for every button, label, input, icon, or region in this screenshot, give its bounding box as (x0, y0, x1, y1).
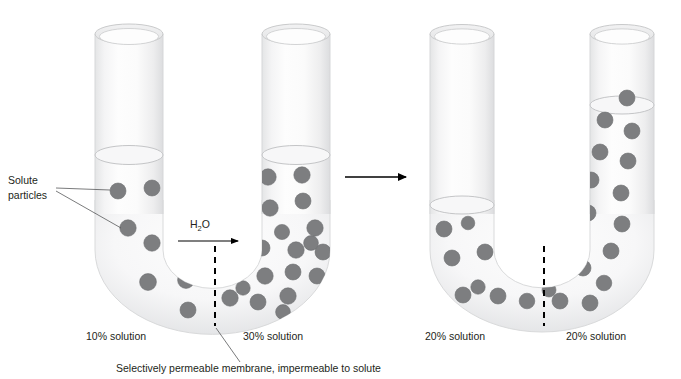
solute-particle (262, 200, 278, 216)
solute-particle (250, 294, 266, 310)
solute-particle (455, 287, 471, 303)
solute-particle (309, 268, 325, 284)
solute-particle (295, 193, 311, 209)
right-tube-left-rim (430, 25, 494, 45)
solute-callout-line2: particles (8, 189, 47, 201)
solute-particle (620, 153, 636, 169)
solute-particle (198, 250, 213, 265)
left-tube-right-rim (262, 24, 330, 45)
solute-particle (569, 232, 585, 248)
solute-particle (173, 240, 189, 256)
solute-particle (285, 264, 301, 280)
solute-particle (528, 233, 541, 246)
solute-particle (178, 272, 195, 289)
water-flow-indicator: H2O (178, 218, 238, 241)
solute-particle (260, 169, 276, 185)
solute-particle (490, 288, 506, 304)
solute-particle (519, 293, 535, 309)
right-tube-left-arm (430, 34, 494, 214)
solute-particle (110, 183, 126, 199)
solute-particle (477, 244, 493, 260)
left-u-tube-assembly: H2O Solute particles 10% solution 30% so… (8, 24, 331, 342)
solute-particle (511, 259, 527, 275)
solute-particle (274, 224, 289, 239)
solute-particle (120, 220, 136, 236)
solute-particle (222, 290, 238, 306)
solute-particle (552, 293, 568, 309)
solute-particle (180, 302, 196, 318)
right-panel-left-solution-label: 20% solution (425, 330, 485, 342)
solute-particle (436, 221, 452, 237)
solute-particle (501, 223, 515, 237)
left-tube-right-arm (262, 34, 330, 214)
solute-particle (144, 235, 160, 251)
solute-particle (597, 112, 613, 128)
solute-particle (288, 242, 304, 258)
right-panel-right-solution-label: 20% solution (566, 330, 626, 342)
solute-particle (575, 260, 591, 276)
water-flow-label: H2O (190, 218, 210, 233)
solute-particle (596, 275, 612, 291)
solute-particle (140, 274, 157, 291)
solute-particle (613, 185, 629, 201)
solute-particle (580, 205, 596, 221)
solute-particle (471, 280, 485, 294)
solute-particle (231, 258, 247, 274)
left-panel-left-solution-label: 10% solution (86, 330, 146, 342)
solute-particle (144, 180, 160, 196)
left-tube-left-rim (95, 24, 163, 45)
solute-particle (280, 288, 296, 304)
solute-particle (276, 305, 291, 320)
solute-particle (582, 295, 598, 311)
solute-particle (236, 281, 250, 295)
solute-particle (294, 167, 310, 183)
solute-callout-line1: Solute (8, 174, 38, 186)
left-arm-liquid-surface (95, 146, 163, 165)
solute-particle (254, 240, 270, 256)
solute-particle (603, 243, 619, 259)
membrane-caption: Selectively permeable membrane, impermea… (116, 362, 381, 374)
solute-particle (548, 259, 564, 275)
solute-particle (444, 250, 460, 266)
right-tube-right-rim (590, 25, 654, 45)
solute-particle (624, 123, 640, 139)
solute-particle (592, 144, 608, 160)
solute-particle (257, 268, 273, 284)
solute-particle (614, 216, 630, 232)
solute-particle (307, 220, 323, 236)
solute-particle (461, 216, 475, 230)
solute-particle (239, 220, 254, 235)
right-u-tube-assembly: 20% solution 20% solution (425, 25, 654, 343)
right-arm-liquid-surface (262, 146, 330, 165)
solute-particle (304, 236, 319, 251)
solute-particle (583, 172, 599, 188)
solute-particle (619, 90, 635, 106)
osmosis-diagram-figure: H2O Solute particles 10% solution 30% so… (0, 0, 681, 379)
left-panel-right-solution-label: 30% solution (243, 330, 303, 342)
diagram-canvas: H2O Solute particles 10% solution 30% so… (0, 0, 681, 379)
right-panel-left-arm-liquid-surface (430, 196, 494, 214)
